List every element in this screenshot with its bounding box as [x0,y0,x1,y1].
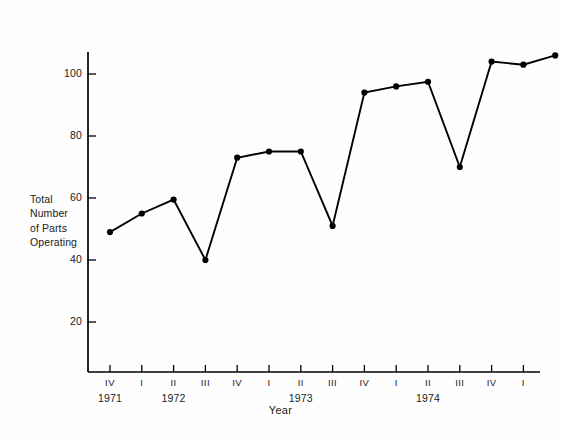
x-axis-title: Year [0,404,561,416]
y-axis-title-line-4: Operating [30,235,102,249]
data-point-marker [266,148,272,154]
data-point-marker [298,148,304,154]
y-axis-title-line-2: Number [30,206,102,220]
data-point-marker [425,79,431,85]
y-axis-title-line-3: of Parts [30,221,102,235]
data-point-marker [520,62,526,68]
data-point-marker [139,210,145,216]
data-point-marker [489,59,495,65]
data-point-marker [393,83,399,89]
data-point-marker [234,155,240,161]
x-axis-year-label: 1972 [149,392,199,404]
data-point-marker [107,229,113,235]
data-point-marker [457,164,463,170]
data-point-marker [171,196,177,202]
data-point-marker [552,52,558,58]
y-axis-title-line-1: Total [30,192,102,206]
data-point-marker [361,90,367,96]
y-tick-label: 20 [34,315,82,327]
chart-page: 20406080100 IVIIIIIIIVIIIIIIIVIIIIIIIVI … [0,0,561,443]
y-axis-title: Total Number of Parts Operating [30,192,102,250]
y-tick-label: 100 [34,67,82,79]
x-axis-year-label: 1971 [85,392,135,404]
data-point-marker [202,257,208,263]
y-tick-label: 40 [34,253,82,265]
x-tick-label: I [503,377,543,388]
y-tick-label: 80 [34,129,82,141]
x-axis-year-label: 1974 [403,392,453,404]
x-axis-year-label: 1973 [276,392,326,404]
data-point-marker [330,223,336,229]
